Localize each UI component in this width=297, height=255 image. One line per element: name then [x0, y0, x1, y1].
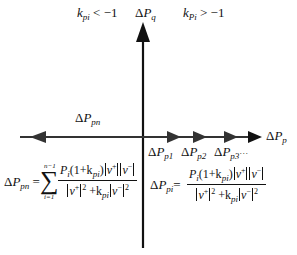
- formula-pn-denominator: v+2 +kpiv−2: [64, 181, 130, 200]
- formula-pi-lhs: ΔPpi=: [150, 178, 181, 194]
- region-label-left: kpi < −1: [77, 6, 117, 22]
- vector-p1-label: ΔPp1: [148, 145, 173, 161]
- formula-pn-lhs: ΔPpn =: [4, 175, 40, 191]
- negative-vector-arrowhead: [30, 131, 46, 143]
- formula-pi-fraction: Pi(1+kpi)v+v− v+2 +kpiv−2: [187, 166, 266, 204]
- formula-pi-numerator: Pi(1+kpi)v+v−: [187, 166, 266, 185]
- vertical-axis-label: ΔPq: [135, 6, 156, 22]
- vector-p3-arrowhead: [224, 131, 238, 143]
- sum-symbol: ∑: [40, 168, 59, 194]
- vertical-axis-arrowhead: [136, 22, 150, 42]
- formula-pn-numerator: Pi(1+kpi)v+v−: [58, 162, 137, 181]
- formula-pi-denominator: v+2 +kpiv−2: [193, 185, 259, 204]
- vector-p2-label: ΔPp2: [181, 145, 206, 161]
- vector-pn-label: ΔPpn: [75, 111, 100, 127]
- vector-p1-arrowhead: [167, 131, 181, 143]
- region-label-right: kPi > −1: [183, 6, 224, 22]
- vector-p2-arrowhead: [193, 131, 207, 143]
- horizontal-axis-label: ΔPp: [266, 129, 287, 145]
- horizontal-axis-arrowhead: [248, 131, 262, 143]
- axes-drawing: [0, 0, 297, 255]
- formula-pn-fraction: Pi(1+kpi)v+v− v+2 +kpiv−2: [58, 162, 137, 200]
- vector-p3-label: ΔPp3···: [214, 145, 248, 161]
- sum-lower-limit: i=1: [44, 193, 54, 201]
